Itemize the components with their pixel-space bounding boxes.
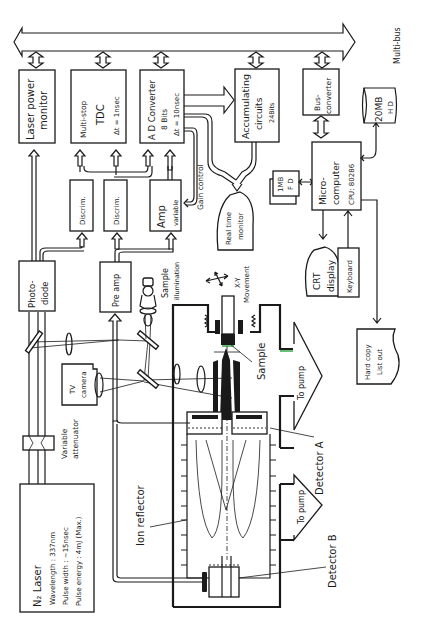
sample-illumination-lamp: Sample illumination bbox=[140, 262, 181, 314]
svg-text:Pre amp: Pre amp bbox=[112, 274, 121, 307]
svg-text:Δt = 1nsec: Δt = 1nsec bbox=[113, 96, 121, 135]
svg-text:attenuator: attenuator bbox=[71, 418, 80, 459]
laser-power-monitor-block: Laser power monitor bbox=[19, 70, 55, 143]
vacuum-chamber bbox=[173, 296, 294, 607]
svg-text:N₂ Laser: N₂ Laser bbox=[32, 564, 43, 607]
svg-text:converter: converter bbox=[324, 77, 333, 114]
keyboard-block: Keyboard bbox=[338, 248, 359, 297]
preamp-block: Pre amp bbox=[100, 262, 131, 312]
svg-text:TV: TV bbox=[69, 385, 77, 395]
svg-text:display: display bbox=[326, 259, 336, 292]
svg-text:camera: camera bbox=[80, 372, 88, 398]
photodiode-block: Photo- diode bbox=[19, 261, 55, 311]
svg-text:H D: H D bbox=[387, 101, 395, 114]
discriminator-2: Discrim. bbox=[104, 180, 127, 231]
svg-text:monitor: monitor bbox=[38, 90, 49, 130]
svg-text:Micro-: Micro- bbox=[318, 177, 328, 205]
svg-text:Pulse width : ~15nsec: Pulse width : ~15nsec bbox=[62, 527, 70, 605]
svg-text:Δt = 10nsec: Δt = 10nsec bbox=[173, 93, 181, 136]
svg-text:Ion reflector: Ion reflector bbox=[135, 484, 146, 546]
svg-text:Real time: Real time bbox=[225, 212, 233, 245]
svg-text:Detector B: Detector B bbox=[327, 534, 338, 588]
svg-text:Photo-: Photo- bbox=[27, 281, 37, 308]
svg-text:1MB: 1MB bbox=[277, 177, 285, 192]
tv-camera: TV camera bbox=[62, 364, 103, 405]
svg-text:Laser power: Laser power bbox=[25, 78, 36, 140]
svg-text:F D: F D bbox=[287, 178, 295, 190]
amp-variable-block: Amp variable bbox=[150, 180, 181, 231]
keyboard-micro-arrow bbox=[344, 211, 352, 248]
micro-hardcopy-line bbox=[361, 200, 381, 323]
floppy-disk-1mb: 1MB F D bbox=[270, 171, 313, 204]
ad-to-accumulating-arrow bbox=[184, 87, 234, 113]
svg-text:Variable: Variable bbox=[60, 428, 69, 459]
svg-text:Detector A: Detector A bbox=[314, 441, 325, 495]
svg-text:illumination: illumination bbox=[173, 262, 181, 300]
svg-text:TDC: TDC bbox=[95, 104, 106, 126]
real-time-monitor: Real time monitor bbox=[217, 192, 253, 250]
svg-text:A D Converter: A D Converter bbox=[147, 79, 157, 140]
hard-disk-20mb: 20MB H D bbox=[363, 88, 397, 123]
svg-text:variable: variable bbox=[172, 200, 180, 226]
gain-control-label: Gain control bbox=[196, 164, 205, 210]
crt-display: CRT display bbox=[306, 247, 341, 296]
bus-converter-block: Bus- converter bbox=[303, 69, 339, 115]
bus-connectors bbox=[29, 52, 329, 68]
preamp-input-arrow bbox=[109, 314, 121, 421]
microcomputer-block: Micro- computer CPU: 80286 bbox=[312, 142, 361, 210]
hard-copy-output: Hard copy List out bbox=[357, 329, 399, 384]
svg-text:Bus-: Bus- bbox=[313, 94, 322, 111]
multi-bus: Multi-bus bbox=[14, 24, 402, 64]
ion-reflector: Ion reflector bbox=[135, 434, 276, 578]
variable-attenuator: Variable attenuator bbox=[23, 418, 80, 459]
svg-text:Pulse energy : 4mJ (Max.): Pulse energy : 4mJ (Max.) bbox=[75, 516, 83, 606]
svg-text:computer: computer bbox=[331, 161, 341, 205]
svg-text:Discrim.: Discrim. bbox=[113, 196, 121, 225]
svg-text:monitor: monitor bbox=[237, 212, 245, 240]
svg-text:Discrim.: Discrim. bbox=[79, 196, 87, 225]
svg-text:Sample: Sample bbox=[256, 343, 267, 381]
svg-text:Wavelength : 337nm: Wavelength : 337nm bbox=[49, 532, 57, 605]
svg-text:CRT: CRT bbox=[312, 272, 322, 290]
n2-laser-block: N₂ Laser Wavelength : 337nm Pulse width … bbox=[20, 484, 94, 612]
schematic-diagram: Multi-bus Laser power monitor Multi-stop… bbox=[0, 0, 423, 628]
discrim-input-arrows bbox=[40, 233, 176, 264]
svg-text:20MB: 20MB bbox=[374, 97, 384, 122]
svg-text:Hard copy: Hard copy bbox=[364, 344, 372, 380]
to-pump-a-arrow: To pump bbox=[294, 322, 322, 430]
gain-control-line: Gain control bbox=[184, 128, 205, 210]
accumulating-circuits-block: Accumulating circuits 24Bits bbox=[235, 69, 279, 142]
svg-text:8 Bits: 8 Bits bbox=[160, 109, 169, 130]
busconv-micro-connector bbox=[314, 116, 328, 138]
tdc-block: Multi-stop TDC Δt = 1nsec bbox=[71, 70, 126, 143]
amp-out-arrow bbox=[168, 166, 172, 180]
svg-text:Multi-stop: Multi-stop bbox=[79, 101, 88, 138]
discriminator-1: Discrim. bbox=[70, 180, 93, 231]
svg-text:To pump: To pump bbox=[297, 366, 306, 401]
svg-text:circuits: circuits bbox=[254, 97, 264, 130]
svg-text:Movement: Movement bbox=[243, 266, 251, 303]
ad-converter-block: A D Converter 8 Bits Δt = 10nsec bbox=[140, 70, 184, 143]
svg-text:List out: List out bbox=[376, 349, 384, 375]
sample-illumination-label: Sample bbox=[161, 268, 170, 298]
svg-text:CPU: 80286: CPU: 80286 bbox=[348, 163, 356, 205]
svg-text:24Bits: 24Bits bbox=[268, 102, 276, 123]
detector-a: Detector A bbox=[187, 412, 325, 495]
multi-bus-label: Multi-bus bbox=[393, 27, 402, 64]
mirror-2 bbox=[138, 331, 159, 349]
svg-text:Accumulating: Accumulating bbox=[240, 74, 251, 139]
micro-crt-arrow bbox=[319, 210, 327, 239]
svg-text:X-Y: X-Y bbox=[234, 277, 242, 288]
svg-text:Keyboard: Keyboard bbox=[346, 260, 354, 293]
detector-cables bbox=[113, 420, 202, 582]
svg-text:diode: diode bbox=[40, 281, 50, 305]
svg-text:Amp: Amp bbox=[156, 205, 167, 228]
svg-text:To pump: To pump bbox=[297, 490, 306, 525]
micro-hd-connector bbox=[361, 123, 379, 161]
